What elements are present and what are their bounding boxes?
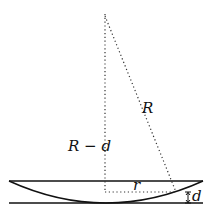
lens-sag-diagram: R R − d r d: [0, 0, 204, 214]
hypotenuse-dotted-line: [105, 16, 176, 192]
label-vertical-R-minus-d: R − d: [67, 137, 111, 155]
label-radius-r: r: [133, 176, 141, 194]
label-sag-d: d: [192, 187, 202, 205]
label-hypotenuse-R: R: [141, 99, 153, 117]
sag-marker-icon: [185, 192, 191, 203]
